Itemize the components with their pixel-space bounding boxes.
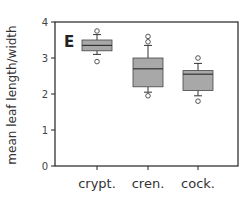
panel-label: E <box>64 33 74 51</box>
boxes <box>82 29 213 104</box>
y-axis: 01234 <box>42 17 55 172</box>
y-axis-label: mean leaf length/width <box>5 25 19 164</box>
y-tick-label: 3 <box>42 53 48 64</box>
x-axis: crypt.cren.cock. <box>78 166 215 191</box>
x-tick-label: crypt. <box>78 176 116 191</box>
x-tick-label: cock. <box>181 176 215 191</box>
y-tick-label: 4 <box>42 17 48 28</box>
y-tick-label: 2 <box>42 89 48 100</box>
x-tick-label: cren. <box>132 176 165 191</box>
y-tick-label: 1 <box>42 125 48 136</box>
box-plot: mean leaf length/width 01234 crypt.cren.… <box>0 0 251 208</box>
y-tick-label: 0 <box>42 161 48 172</box>
